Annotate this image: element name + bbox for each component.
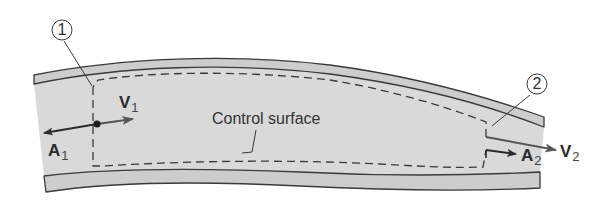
inlet-point [93,120,100,127]
v2-symbol: V [560,142,571,161]
a2-symbol: A [521,146,533,165]
control-surface-label: Control surface [212,111,321,127]
station-2-label: 2 [526,76,548,92]
v2-subscript: 2 [572,149,579,164]
a2-label: A2 [521,147,542,167]
v1-symbol: V [119,93,130,112]
v1-label: V1 [119,94,139,114]
a1-symbol: A [48,141,60,160]
station-1-label: 1 [51,22,73,38]
v1-subscript: 1 [131,100,138,115]
a1-label: A1 [48,142,69,162]
a1-subscript: 1 [61,148,68,163]
pipe-flow-diagram [0,0,608,208]
a2-subscript: 2 [534,153,541,168]
v2-label: V2 [560,143,580,163]
